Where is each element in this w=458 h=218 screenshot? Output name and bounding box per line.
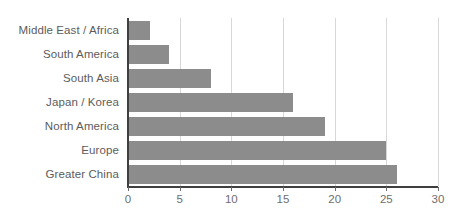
- x-tick-label: 25: [380, 193, 393, 205]
- x-tick-label: 5: [176, 193, 182, 205]
- x-tick-mark: [386, 187, 387, 191]
- x-tick-mark: [438, 187, 439, 191]
- category-label: South America: [43, 48, 124, 61]
- bar-series: [128, 18, 438, 186]
- bar: [128, 93, 293, 112]
- category-label: South Asia: [63, 72, 124, 85]
- x-tick-mark: [128, 187, 129, 191]
- bar: [128, 165, 397, 184]
- bar-row: [128, 45, 438, 64]
- bar-row: [128, 21, 438, 40]
- gridline: [438, 18, 439, 186]
- bar: [128, 21, 150, 40]
- bar: [128, 117, 325, 136]
- bar: [128, 45, 169, 64]
- category-label: Europe: [81, 144, 124, 157]
- bar: [128, 141, 386, 160]
- bar-row: [128, 165, 438, 184]
- bar-row: [128, 93, 438, 112]
- category-label: Middle East / Africa: [19, 24, 124, 37]
- bar-row: [128, 117, 438, 136]
- x-tick-label: 15: [277, 193, 290, 205]
- x-tick-label: 0: [125, 193, 131, 205]
- x-tick-mark: [335, 187, 336, 191]
- category-label: Greater China: [45, 168, 124, 181]
- x-tick-label: 30: [432, 193, 445, 205]
- x-tick-label: 10: [225, 193, 238, 205]
- category-label: North America: [45, 120, 124, 133]
- x-tick-mark: [180, 187, 181, 191]
- bar: [128, 69, 211, 88]
- plot-area: [128, 18, 438, 186]
- category-axis: Middle East / AfricaSouth AmericaSouth A…: [0, 18, 124, 186]
- x-tick-mark: [283, 187, 284, 191]
- bar-row: [128, 141, 438, 160]
- bar-row: [128, 69, 438, 88]
- bar-chart: Middle East / AfricaSouth AmericaSouth A…: [0, 0, 458, 218]
- y-axis-line: [127, 18, 129, 186]
- category-label: Japan / Korea: [46, 96, 124, 109]
- x-tick-mark: [231, 187, 232, 191]
- x-tick-label: 20: [328, 193, 341, 205]
